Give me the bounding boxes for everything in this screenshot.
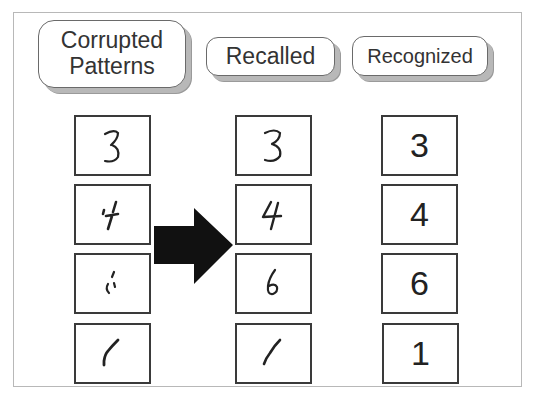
header-corrupted-patterns: Corrupted Patterns	[38, 20, 186, 88]
recognized-value-4: 4	[410, 195, 429, 234]
recognized-digit-4: 4	[381, 184, 458, 245]
handwritten-6-corrupted-glyph	[74, 253, 151, 314]
header-recognized: Recognized	[352, 36, 488, 76]
corrupted-digit-1	[74, 323, 151, 384]
handwritten-1-corrupted-glyph	[74, 323, 151, 384]
recalled-digit-4	[235, 184, 312, 245]
header-recalled: Recalled	[206, 37, 335, 76]
handwritten-4-recalled-glyph	[235, 184, 312, 245]
handwritten-6-recalled-glyph	[235, 253, 312, 314]
handwritten-1-recalled-glyph	[235, 323, 312, 384]
recalled-digit-6	[235, 253, 312, 314]
corrupted-digit-3	[74, 115, 151, 176]
header-recognized-label: Recognized	[367, 45, 473, 67]
right-arrow-icon	[154, 208, 234, 288]
recognized-value-1: 1	[411, 334, 430, 373]
handwritten-4-corrupted-glyph	[74, 184, 151, 245]
header-corrupted-line2: Patterns	[61, 54, 163, 80]
recognized-digit-6: 6	[381, 253, 458, 314]
handwritten-3-corrupted-glyph	[74, 115, 151, 176]
recalled-digit-1	[235, 323, 312, 384]
corrupted-digit-4	[74, 184, 151, 245]
handwritten-3-recalled-glyph	[235, 115, 312, 176]
header-corrupted-line1: Corrupted	[61, 28, 163, 54]
recognized-digit-3: 3	[381, 115, 458, 176]
corrupted-digit-6	[74, 253, 151, 314]
recognized-value-3: 3	[410, 126, 429, 165]
recognized-digit-1: 1	[382, 323, 459, 384]
header-recalled-label: Recalled	[226, 44, 316, 70]
recognized-value-6: 6	[410, 264, 429, 303]
recalled-digit-3	[235, 115, 312, 176]
